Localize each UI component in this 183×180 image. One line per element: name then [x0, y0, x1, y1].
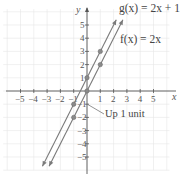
g-equation-label: g(x) = 2x + 1 — [119, 2, 180, 15]
y-tick-label: 1 — [80, 73, 85, 83]
x-tick-label: 1 — [98, 94, 103, 104]
data-point — [72, 102, 76, 106]
annotation-label: Up 1 unit — [105, 108, 145, 119]
y-tick-label: −2 — [77, 112, 87, 122]
x-tick-label: 4 — [138, 94, 143, 104]
y-axis-label: y — [75, 4, 81, 15]
data-point — [98, 49, 102, 53]
data-point — [85, 89, 89, 93]
f-equation-label: f(x) = 2x — [120, 33, 161, 46]
y-tick-label: −5 — [77, 152, 87, 162]
x-tick-label: −3 — [42, 94, 52, 104]
x-axis-label: x — [171, 91, 177, 102]
x-tick-label: −5 — [15, 94, 25, 104]
data-point — [85, 76, 89, 80]
function-graph: −5−4−3−2−112345−5−4−3−2−112345 y x g(x) … — [0, 0, 183, 180]
y-tick-label: 5 — [80, 20, 85, 30]
data-point — [72, 115, 76, 119]
data-point — [98, 62, 102, 66]
y-tick-label: 3 — [80, 46, 85, 56]
y-tick-label: 4 — [80, 33, 85, 43]
x-tick-label: 5 — [151, 94, 156, 104]
x-tick-label: −4 — [28, 94, 38, 104]
x-tick-label: 3 — [124, 94, 129, 104]
y-tick-label: −4 — [77, 139, 87, 149]
x-tick-label: 2 — [111, 94, 116, 104]
annotation-leader — [87, 104, 104, 114]
y-tick-label: 2 — [80, 60, 85, 70]
y-tick-label: −3 — [77, 126, 87, 136]
x-tick-label: −2 — [55, 94, 65, 104]
